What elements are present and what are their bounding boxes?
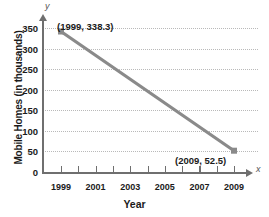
xtickmark-2008 (217, 166, 218, 173)
xtickmark-2007 (199, 166, 200, 173)
line-chart: 350 300 250 200 150 100 50 0 y x 1999 20… (0, 0, 269, 217)
xtickmark-2005 (165, 166, 166, 173)
gridline-100 (43, 131, 258, 132)
gridline-150 (43, 110, 258, 111)
gridline-250 (43, 69, 258, 70)
gridline-200 (43, 90, 258, 91)
xtickmark-2001 (96, 166, 97, 173)
xtickmark-1999 (61, 166, 62, 173)
xtickmark-2002 (113, 166, 114, 173)
xtick-label-1999: 1999 (51, 182, 71, 192)
xtickmark-2009 (234, 166, 235, 173)
annotation-1999: (1999, 338.3) (57, 21, 114, 32)
x-axis-arrow-icon (246, 169, 253, 177)
y-axis-arrow-icon (39, 14, 47, 21)
gridline-300 (43, 49, 258, 50)
y-axis-title: Mobile Homes (in thousands) (13, 18, 24, 178)
y-axis-variable-name: y (45, 1, 50, 11)
xtick-label-2003: 2003 (120, 182, 140, 192)
xtick-label-2001: 2001 (86, 182, 106, 192)
xtickmark-2003 (130, 166, 131, 173)
annotation-2009: (2009, 52.5) (175, 155, 226, 166)
gridline-50 (43, 151, 258, 152)
xtickmark-2000 (78, 166, 79, 173)
xtick-label-2005: 2005 (155, 182, 175, 192)
x-axis-variable-name: x (256, 164, 261, 174)
xtickmark-2004 (148, 166, 149, 173)
xtick-label-2007: 2007 (189, 182, 209, 192)
xtick-label-2009: 2009 (224, 182, 244, 192)
xtickmark-2006 (182, 166, 183, 173)
y-axis-line (42, 20, 44, 173)
x-axis-title: Year (0, 198, 269, 210)
